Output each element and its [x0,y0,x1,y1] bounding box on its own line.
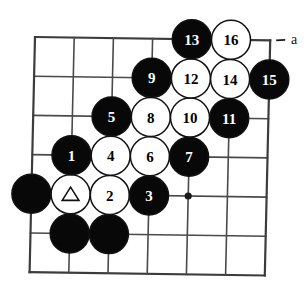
stone-7-label: 7 [185,149,193,165]
stone-triangle[interactable] [51,175,90,214]
stone-1[interactable]: 1 [52,136,91,175]
stone-14-label: 14 [223,72,239,88]
point-label-a: a [291,32,298,47]
black-stone [50,214,89,253]
stone-14[interactable]: 14 [211,59,250,98]
star-point-0 [185,192,192,199]
stone-15[interactable]: 15 [250,60,289,99]
stone-16-label: 16 [224,32,240,48]
stone-3[interactable]: 3 [130,176,169,215]
point-labels-layer: a [291,32,298,47]
stone-6[interactable]: 6 [130,137,169,176]
stone-2-label: 2 [106,188,114,204]
stone-7[interactable]: 7 [170,137,209,176]
stones-layer: 12345678910111213141516 [12,20,289,254]
stone-10[interactable]: 10 [171,98,210,137]
go-board-diagram: 12345678910111213141516 a [0,0,304,292]
stone-5-label: 5 [108,109,116,125]
stone-9-label: 9 [148,70,156,86]
black-lower-stone-a[interactable] [50,214,89,253]
white-stone [51,175,90,214]
stone-15-label: 15 [262,72,277,88]
stone-8-label: 8 [147,110,155,126]
stone-2[interactable]: 2 [90,175,129,214]
stone-3-label: 3 [145,188,153,204]
stone-4[interactable]: 4 [91,136,130,175]
black-stone [89,215,128,254]
go-board-svg: 12345678910111213141516 a [0,0,304,292]
stone-16[interactable]: 16 [212,20,251,59]
stone-13-label: 13 [184,32,199,48]
stone-10-label: 10 [183,110,198,126]
stone-11-label: 11 [222,111,236,127]
stone-12[interactable]: 12 [171,59,210,98]
black-stone [12,174,51,213]
star-points [185,192,192,199]
point-label-connector-a [276,40,285,41]
black-lower-stone-b[interactable] [89,215,128,254]
stone-13[interactable]: 13 [172,20,211,59]
stone-8[interactable]: 8 [131,98,170,137]
stone-1-label: 1 [68,148,76,164]
stone-6-label: 6 [146,149,154,165]
stone-5[interactable]: 5 [92,97,131,136]
black-edge-stone[interactable] [12,174,51,213]
point-marker-lines [276,40,285,41]
stone-11[interactable]: 11 [210,99,249,138]
stone-9[interactable]: 9 [132,58,171,97]
stone-4-label: 4 [107,148,115,164]
stone-12-label: 12 [183,71,198,87]
